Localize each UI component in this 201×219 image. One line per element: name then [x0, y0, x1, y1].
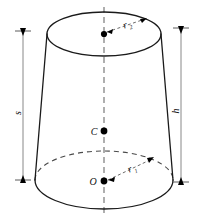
right-slant-edge — [161, 34, 173, 180]
top-radius-subscript: 2 — [129, 24, 134, 31]
bottom-ellipse-hidden-arc — [35, 151, 173, 180]
top-radius-label-group: r 2 — [121, 17, 133, 32]
top-center-dot — [101, 31, 107, 37]
bottom-radius-subscript: 1 — [133, 168, 138, 175]
frustum-diagram-canvas: s h r 2 r 1 C O — [0, 0, 201, 219]
height-dimension-top-arrowhead — [178, 26, 184, 34]
frustum-figure: s h r 2 r 1 C O — [0, 0, 201, 219]
centroid-dot — [101, 128, 108, 135]
slant-height-label: s — [12, 111, 23, 115]
center-point-label: C — [91, 126, 98, 137]
height-dimension-bottom-arrowhead — [178, 177, 184, 185]
bottom-radius-label-group: r 1 — [126, 161, 139, 176]
origin-dot — [101, 178, 108, 185]
left-slant-edge — [35, 34, 47, 180]
top-radius-arrowhead-outer — [140, 18, 147, 23]
origin-point-label: O — [89, 176, 96, 187]
slant-dimension-bottom-arrowhead — [20, 175, 26, 183]
height-label: h — [170, 109, 181, 114]
slant-dimension-top-arrowhead — [20, 28, 26, 36]
